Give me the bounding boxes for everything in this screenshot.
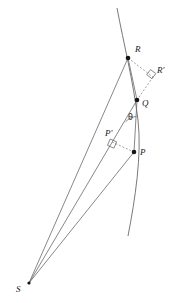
angle-label-theta: θ [128,114,133,122]
radius-S-to-R [29,58,128,283]
point-label-P-prime: P' [105,129,112,138]
point-marker-P [132,150,137,155]
right-angle-icon-at-R-prime [147,70,156,79]
dashed-P-prime-to-P [112,142,134,152]
point-label-P: P [140,148,146,157]
chord-Q-to-P [134,100,137,152]
geometry-figure: R R' Q θ P' P S [0,0,173,303]
diagram-canvas [0,0,173,303]
right-angle-icon-at-P-prime [108,139,117,148]
point-label-R-prime: R' [157,66,164,75]
point-label-S: S [16,285,21,294]
point-label-R: R [135,45,141,54]
point-marker-R [126,56,131,61]
point-marker-S [27,281,30,284]
chord-R-to-Q [128,58,137,100]
point-label-Q: Q [142,99,149,108]
point-marker-Q [135,98,140,103]
radius-S-to-Q [29,100,137,283]
radius-S-to-P [29,152,134,283]
dashed-R-prime-to-Q [137,77,153,100]
